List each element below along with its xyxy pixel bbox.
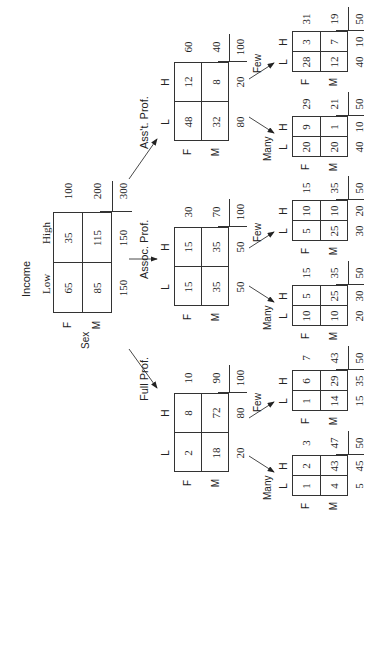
branch-label-full-prof: Full Prof. (138, 357, 150, 401)
income-title: Income (20, 261, 32, 297)
sex-label: Sex (80, 332, 92, 349)
col-label-low: Low (40, 264, 52, 304)
decision-tree-figure: Income Low High 65 35 85 115 F M Sex 100… (0, 0, 376, 669)
branch-label-asst-prof: Ass't. Prof. (138, 96, 150, 149)
col-label-high: High (40, 213, 52, 253)
branch-label-assoc-prof: Assoc. Prof. (138, 220, 150, 279)
